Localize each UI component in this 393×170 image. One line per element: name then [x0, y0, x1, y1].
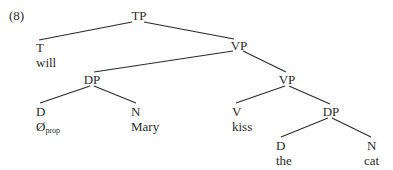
node-t: T: [36, 41, 44, 54]
null-subscript: prop: [45, 126, 60, 135]
edge-vp-vp: [243, 51, 286, 72]
edge-dp2-n: [332, 118, 371, 137]
tree-edges: [0, 0, 393, 170]
edge-dp-d: [40, 86, 90, 103]
word-kiss: kiss: [232, 120, 252, 133]
node-d-subject: D: [36, 105, 45, 118]
node-n-subject: N: [131, 105, 140, 118]
edge-tp-vp: [144, 22, 234, 39]
edge-vp2-v: [236, 86, 285, 103]
word-null-determiner: Øprop: [36, 120, 60, 137]
word-mary: Mary: [131, 120, 159, 133]
word-will: will: [36, 56, 56, 69]
node-n-object: N: [367, 139, 376, 152]
node-vp-upper: VP: [231, 39, 248, 52]
edge-dp-n: [94, 86, 136, 103]
node-tp: TP: [131, 9, 146, 22]
null-symbol: Ø: [36, 119, 45, 134]
word-the: the: [276, 154, 292, 167]
edge-vp2-dp: [289, 86, 330, 104]
example-number: (8): [9, 9, 24, 22]
node-dp-subject: DP: [84, 73, 101, 86]
edge-vp-dp: [94, 51, 233, 72]
node-vp-lower: VP: [279, 73, 296, 86]
node-d-object: D: [276, 139, 285, 152]
edge-dp2-d: [281, 118, 328, 137]
word-cat: cat: [364, 154, 379, 167]
node-dp-object: DP: [323, 105, 340, 118]
edge-tp-t: [39, 22, 132, 40]
node-v: V: [232, 105, 241, 118]
